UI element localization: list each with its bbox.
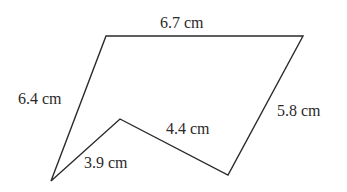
label-inner-right-side: 4.4 cm (166, 120, 210, 137)
label-top-side: 6.7 cm (160, 14, 204, 31)
label-inner-left-side: 3.9 cm (84, 154, 128, 171)
polygon-diagram: 6.7 cm 6.4 cm 5.8 cm 4.4 cm 3.9 cm (0, 0, 347, 192)
label-left-side: 6.4 cm (18, 90, 62, 107)
label-right-side: 5.8 cm (277, 102, 321, 119)
